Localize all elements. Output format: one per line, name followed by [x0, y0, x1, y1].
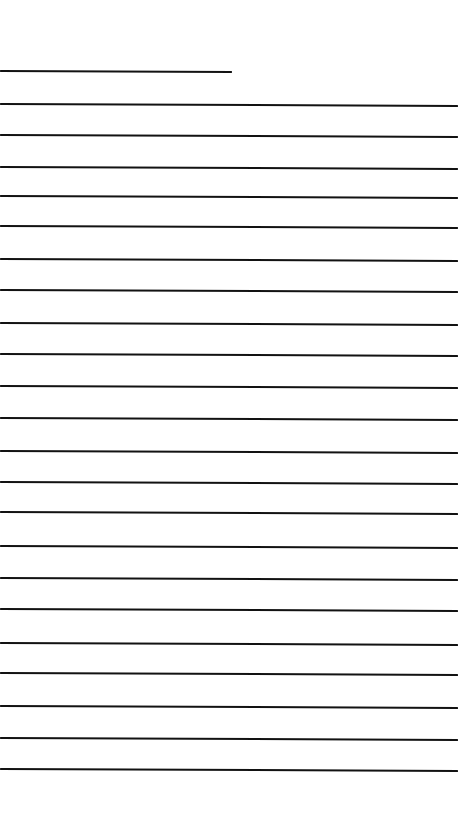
rule-line [0, 289, 458, 293]
body-rule [0, 642, 458, 646]
body-rule [0, 450, 458, 454]
body-rule [0, 608, 458, 612]
rule-line [0, 385, 458, 389]
body-rule [0, 103, 458, 107]
rule-line [0, 672, 458, 676]
body-rule [0, 577, 458, 581]
rule-line [0, 450, 458, 454]
rule-line [0, 417, 458, 421]
body-rule [0, 511, 458, 515]
body-rule [0, 195, 458, 199]
ruled-page [0, 0, 460, 825]
rule-line [0, 768, 458, 772]
body-rule [0, 166, 458, 170]
body-rule [0, 672, 458, 676]
rule-line [0, 737, 458, 741]
rule-line [0, 134, 458, 138]
body-rule [0, 545, 458, 549]
rule-line [0, 322, 458, 326]
body-rule [0, 385, 458, 389]
rule-line [0, 481, 458, 485]
rule-line [0, 258, 458, 262]
title-rule [0, 70, 232, 73]
rule-line [0, 70, 232, 73]
body-rule [0, 481, 458, 485]
rule-line [0, 225, 458, 229]
body-rule [0, 225, 458, 229]
body-rule [0, 417, 458, 421]
body-rule [0, 737, 458, 741]
body-rule [0, 322, 458, 326]
rule-line [0, 705, 458, 709]
body-rule [0, 258, 458, 262]
rule-line [0, 545, 458, 549]
body-rule [0, 353, 458, 357]
rule-line [0, 511, 458, 515]
body-rule [0, 705, 458, 709]
rule-line [0, 166, 458, 170]
body-rule [0, 768, 458, 772]
rule-line [0, 608, 458, 612]
rule-line [0, 577, 458, 581]
body-rule [0, 289, 458, 293]
rule-line [0, 103, 458, 107]
rule-line [0, 642, 458, 646]
body-rule [0, 134, 458, 138]
rule-line [0, 195, 458, 199]
rule-line [0, 353, 458, 357]
